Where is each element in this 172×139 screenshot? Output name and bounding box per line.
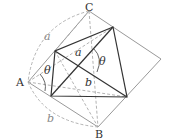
label-c: C bbox=[85, 1, 93, 14]
diagonal-2 bbox=[55, 51, 127, 97]
dashed-line-c-down bbox=[89, 11, 98, 127]
dashed-line-a-right bbox=[28, 82, 127, 97]
label-outer-a: a bbox=[44, 30, 51, 43]
dashed-line-b-left bbox=[55, 51, 98, 127]
label-a-vertex: A bbox=[15, 76, 25, 89]
label-outer-b: b bbox=[47, 112, 54, 125]
label-inner-a: a bbox=[75, 46, 82, 59]
label-theta-a: θ bbox=[44, 64, 51, 77]
geometry-diagram: C A B a b a b θ θ bbox=[0, 0, 172, 139]
label-inner-b: b bbox=[85, 76, 92, 89]
label-theta-center: θ bbox=[99, 55, 106, 68]
label-b-vertex: B bbox=[95, 128, 103, 139]
